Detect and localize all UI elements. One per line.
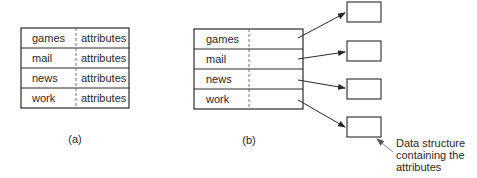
- table-b-row-name: games: [206, 33, 240, 45]
- attribute-box: [347, 41, 381, 61]
- table-a-row-name: games: [32, 32, 66, 44]
- arrow-icon: [298, 80, 345, 88]
- arrow-icon: [298, 100, 345, 127]
- pointer-arrows: [298, 13, 345, 127]
- table-a-row-name: mail: [32, 52, 52, 64]
- callout-line2: containing the: [396, 149, 465, 161]
- table-b-row-name: work: [205, 93, 230, 105]
- table-a: games attributes mail attributes news at…: [21, 28, 129, 108]
- arrow-icon: [298, 13, 345, 38]
- figure-a-caption: (a): [68, 133, 81, 145]
- table-a-row-name: work: [31, 92, 56, 104]
- callout-arrow-icon: [377, 139, 393, 152]
- table-a-row-value: attributes: [81, 72, 127, 84]
- table-b: games mail news work: [194, 29, 303, 109]
- table-b-row-name: mail: [206, 53, 226, 65]
- attribute-box: [347, 2, 381, 22]
- table-a-row-value: attributes: [81, 92, 127, 104]
- table-a-row-value: attributes: [81, 52, 127, 64]
- diagram-canvas: games attributes mail attributes news at…: [0, 0, 477, 178]
- attribute-boxes: [347, 2, 381, 137]
- table-a-row-value: attributes: [81, 32, 127, 44]
- callout-line3: attributes: [396, 161, 442, 173]
- figure-b-caption: (b): [242, 134, 255, 146]
- arrow-icon: [298, 52, 345, 59]
- attribute-box: [347, 79, 381, 99]
- table-a-row-name: news: [32, 72, 58, 84]
- table-b-row-name: news: [206, 73, 232, 85]
- callout-line1: Data structure: [396, 137, 465, 149]
- attribute-box: [347, 117, 381, 137]
